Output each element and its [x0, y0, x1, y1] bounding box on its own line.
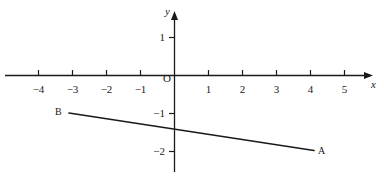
y-axis-ticks: [169, 38, 175, 152]
origin-label: O: [163, 73, 171, 84]
point-label-b: B: [55, 107, 62, 117]
x-axis: [5, 72, 373, 79]
x-axis-label: x: [371, 79, 376, 90]
y-tick-label-neg2: −2: [141, 146, 165, 157]
axes-and-line-graphic: [0, 0, 384, 182]
x-tick-label-neg2: −2: [95, 84, 118, 95]
x-tick-label-neg3: −3: [61, 84, 84, 95]
x-tick-label-neg1: −1: [129, 84, 152, 95]
line-segment-ab: [69, 113, 314, 151]
y-tick-label-neg1: −1: [141, 108, 165, 119]
x-tick-label-neg4: −4: [27, 84, 50, 95]
y-axis: [171, 11, 178, 172]
x-tick-label-5: 5: [334, 84, 355, 95]
x-tick-label-2: 2: [232, 84, 253, 95]
coordinate-plane-figure: −4 −3 −2 −1 1 2 3 4 5 1 −1 −2 O x y B A: [0, 0, 384, 182]
y-axis-label: y: [165, 6, 170, 17]
x-tick-label-3: 3: [266, 84, 287, 95]
point-label-a: A: [318, 146, 325, 156]
x-axis-ticks: [39, 70, 345, 76]
x-tick-label-1: 1: [198, 84, 219, 95]
x-tick-label-4: 4: [300, 84, 321, 95]
y-tick-label-1: 1: [144, 32, 165, 43]
